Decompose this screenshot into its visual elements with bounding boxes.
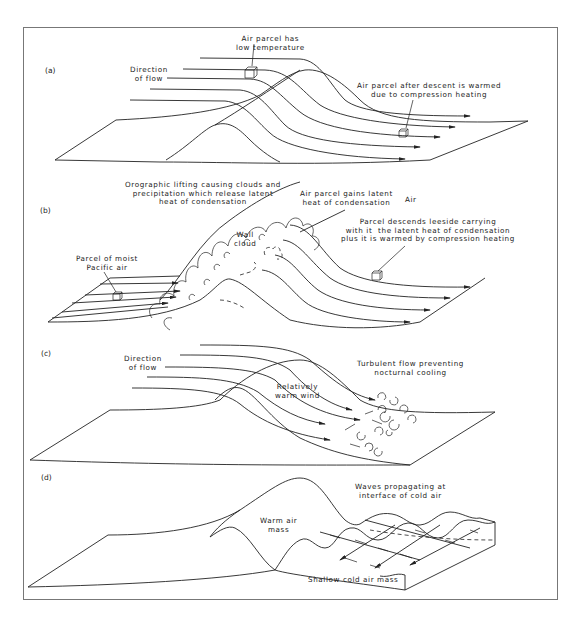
panel-c-label: (c) <box>41 349 51 358</box>
label-waves-propagating: Waves propagating at interface of cold a… <box>355 483 446 500</box>
panel-a-label: (a) <box>45 66 55 75</box>
label-parcel-descends: Parcel descends leeside carrying with it… <box>341 218 515 244</box>
panel-d-terrain <box>28 478 345 587</box>
label-parcel-warmed: Air parcel after descent is warmed due t… <box>357 82 501 99</box>
panel-d-label: (d) <box>41 473 52 482</box>
label-direction-of-flow: Direction of flow <box>124 355 162 372</box>
panel-b-label: (b) <box>40 206 51 215</box>
label-warm-air-mass: Warm air mass <box>260 517 297 534</box>
label-air: Air <box>405 196 417 205</box>
label-air-parcel-low-temp: Air parcel has low temperature <box>236 35 305 52</box>
leader-line <box>378 246 405 271</box>
panel-a-flow-lines <box>130 58 470 159</box>
label-direction-of-flow: Direction of flow <box>130 66 168 83</box>
label-moist-pacific-parcel: Parcel of moist Pacific air <box>76 255 138 272</box>
label-parcel-gains-latent: Air parcel gains latent heat of condensa… <box>300 190 393 207</box>
label-shallow-cold-air: Shallow cold air mass <box>308 576 398 585</box>
air-parcel-cube-icon <box>372 271 382 280</box>
turbulent-eddies <box>345 393 416 456</box>
panel-c-flow-lines <box>132 345 375 440</box>
label-warm-wind: Relatively warm wind <box>275 383 320 400</box>
air-parcel-cube-icon <box>245 67 257 78</box>
label-turbulent-flow: Turbulent flow preventing nocturnal cool… <box>357 360 464 377</box>
label-wall-cloud: Wall cloud <box>234 231 256 248</box>
leader-line <box>104 272 116 292</box>
label-orographic-lifting: Orographic lifting causing clouds and pr… <box>125 181 281 207</box>
